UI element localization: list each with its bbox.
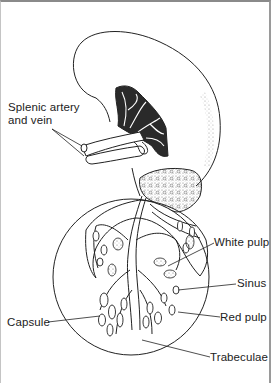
label-white-pulp: White pulp: [214, 236, 269, 249]
label-sinus: Sinus: [237, 277, 266, 290]
spleen-edge-shading: [200, 92, 214, 168]
stalk: [132, 168, 140, 196]
label-and-vein: and vein: [8, 114, 52, 127]
leader-splenic-vessels-a: [52, 129, 82, 146]
magnified-section-circle: [53, 199, 209, 355]
label-trabeculae: Trabeculae: [210, 351, 268, 364]
label-red-pulp: Red pulp: [220, 311, 267, 324]
label-splenic-artery: Splenic artery: [8, 101, 80, 114]
label-capsule: Capsule: [7, 316, 50, 329]
spleen-hilum-edge: [96, 98, 110, 122]
leader-splenic-vessels-b: [52, 129, 84, 156]
vessel-end-cut: [81, 144, 87, 152]
